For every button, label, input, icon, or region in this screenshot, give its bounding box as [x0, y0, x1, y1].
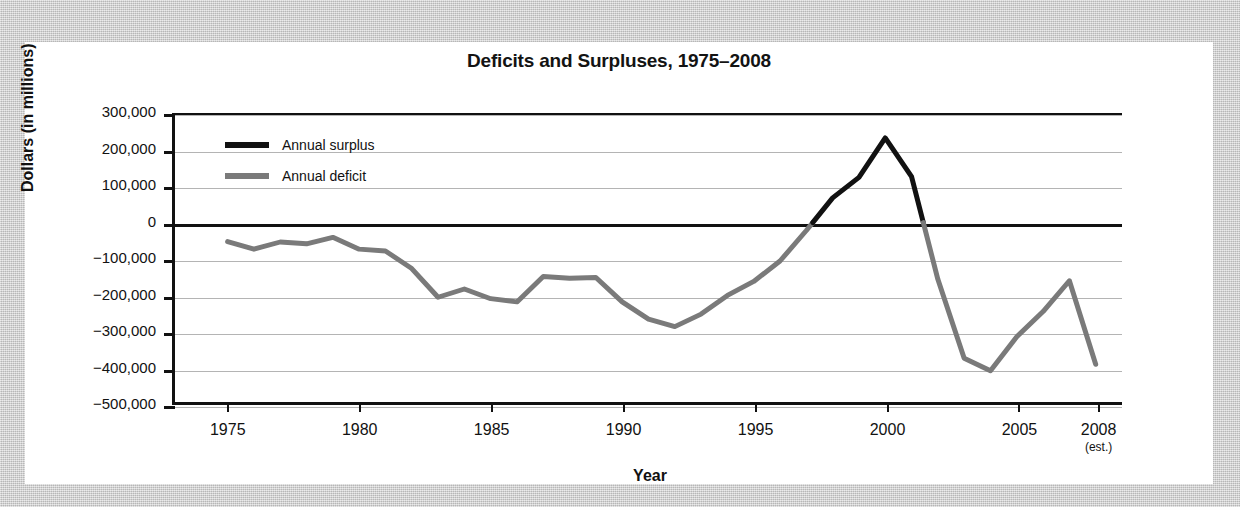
y-tick-mark: [164, 114, 175, 117]
x-tick-mark: [1018, 402, 1020, 412]
legend-item-annual-surplus: Annual surplus: [225, 129, 375, 160]
x-tick-label: 1990: [606, 421, 642, 439]
gridline: [175, 407, 1122, 408]
y-tick-mark: [164, 187, 175, 190]
x-tick-mark: [623, 402, 625, 412]
legend-item-annual-deficit: Annual deficit: [225, 160, 375, 191]
y-tick-label: −100,000: [25, 249, 156, 266]
y-tick-label: −200,000: [25, 286, 156, 303]
y-tick-label: −400,000: [25, 359, 156, 376]
plot-wrapper: Dollars (in millions) 300,000200,000100,…: [25, 42, 1213, 484]
y-tick-mark: [164, 406, 175, 409]
legend-swatch-annual-surplus: [225, 142, 269, 148]
x-tick-label: 1980: [342, 421, 378, 439]
annual-deficit-line: [228, 223, 813, 327]
x-tick-mark: [1098, 402, 1100, 412]
x-tick-sublabel: (est.): [1081, 440, 1117, 454]
y-tick-mark: [164, 260, 175, 263]
annual-surplus-line: [813, 138, 924, 223]
y-tick-mark: [164, 297, 175, 300]
annual-deficit-line: [923, 223, 1095, 371]
x-tick-label: 1995: [738, 421, 774, 439]
y-tick-label: 200,000: [25, 140, 156, 157]
x-tick-label: 2008(est.): [1081, 421, 1117, 454]
y-tick-label: 0: [25, 213, 156, 230]
y-tick-mark: [164, 151, 175, 154]
y-tick-label: −500,000: [25, 395, 156, 412]
x-tick-mark: [491, 402, 493, 412]
x-tick-label: 2005: [1002, 421, 1038, 439]
legend-label-annual-surplus: Annual surplus: [282, 137, 375, 153]
x-tick-mark: [359, 402, 361, 412]
x-tick-mark: [755, 402, 757, 412]
legend-label-annual-deficit: Annual deficit: [282, 168, 366, 184]
x-tick-label: 1985: [474, 421, 510, 439]
x-axis-title: Year: [175, 467, 1125, 485]
plot-area: Annual surplus Annual deficit 1975198019…: [172, 113, 1122, 405]
y-tick-label: −300,000: [25, 322, 156, 339]
y-tick-label: 300,000: [25, 103, 156, 120]
legend-swatch-annual-deficit: [225, 173, 269, 179]
x-tick-mark: [227, 402, 229, 412]
y-tick-mark: [164, 224, 175, 227]
y-tick-mark: [164, 333, 175, 336]
chart-legend: Annual surplus Annual deficit: [225, 129, 375, 191]
x-tick-label: 1975: [210, 421, 246, 439]
x-tick-mark: [887, 402, 889, 412]
y-tick-label: 100,000: [25, 176, 156, 193]
y-tick-mark: [164, 370, 175, 373]
x-tick-label: 2000: [870, 421, 906, 439]
figure-panel: Deficits and Surpluses, 1975–2008 Dollar…: [25, 42, 1213, 484]
